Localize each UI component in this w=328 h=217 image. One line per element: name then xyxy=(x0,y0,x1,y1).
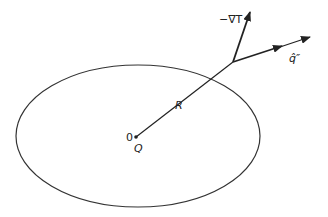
heat-flux-arrow xyxy=(280,37,310,47)
heat-flux-label: q̂″ xyxy=(289,52,301,65)
heat-flux-diagram: −∇T q̂″ R 0 Q xyxy=(0,0,328,217)
origin-point xyxy=(134,135,138,139)
radius-line xyxy=(136,62,233,137)
origin-label: 0 xyxy=(126,131,133,144)
radius-label: R xyxy=(175,99,183,112)
heat-flux-arrow-inner xyxy=(233,46,282,62)
neg-grad-t-label: −∇T xyxy=(219,13,243,26)
source-label: Q xyxy=(134,142,143,155)
